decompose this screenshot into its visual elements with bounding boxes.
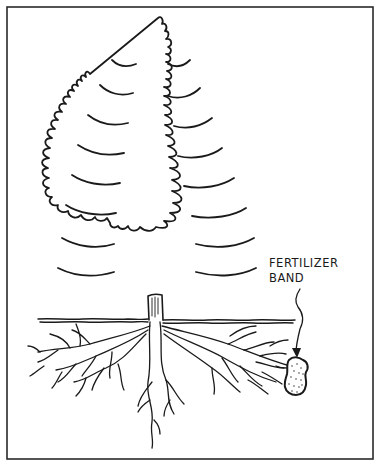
arrow-line xyxy=(296,289,303,353)
tree-crown xyxy=(42,17,256,275)
branch-tier xyxy=(66,205,116,215)
illustration xyxy=(0,0,378,465)
branch-tier xyxy=(72,175,120,185)
fertilizer-band xyxy=(285,357,308,395)
branch-tier xyxy=(174,118,212,128)
branch-tier xyxy=(100,85,133,95)
callout-arrow xyxy=(292,289,302,358)
branch-tier xyxy=(112,60,136,66)
frame-border xyxy=(7,7,373,459)
trunk xyxy=(148,294,163,320)
branch-tier xyxy=(58,268,114,275)
branch-tier xyxy=(196,238,254,247)
branch-tier xyxy=(168,60,190,66)
fertilizer-label-line2: BAND xyxy=(269,271,304,286)
branch-tier xyxy=(88,115,128,125)
branch-tier xyxy=(78,145,124,155)
ground-line xyxy=(38,319,295,324)
branch-tier xyxy=(62,238,114,247)
branch-tier xyxy=(168,88,200,98)
branch-tier xyxy=(192,208,246,218)
branch-tier xyxy=(178,148,222,158)
branch-tier xyxy=(184,178,234,188)
branch-tier xyxy=(196,268,256,275)
fertilizer-band-shape xyxy=(285,357,308,395)
fertilizer-label-line1: FERTILIZER xyxy=(269,256,338,271)
arrowhead-icon xyxy=(292,348,301,358)
root-system xyxy=(28,322,290,448)
